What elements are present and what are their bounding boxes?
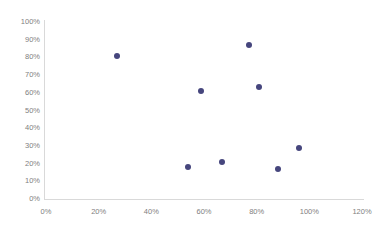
y-tick-label: 40% <box>0 123 40 132</box>
x-tick-label-text: 40% <box>131 207 171 216</box>
y-tick-label-text: 70% <box>0 70 40 79</box>
y-tick-label-text: 90% <box>0 35 40 44</box>
x-tick-label-text: 0% <box>26 207 66 216</box>
y-tick-label: 20% <box>0 159 40 168</box>
y-tick-label: 90% <box>0 35 40 44</box>
y-tick-label-text: 100% <box>0 17 40 26</box>
y-tick-label-text: 50% <box>0 106 40 115</box>
x-tick-label-text: 20% <box>79 207 119 216</box>
x-tick-label: 40% <box>131 207 171 217</box>
y-tick-label-text: 80% <box>0 52 40 61</box>
x-tick-label-text: 100% <box>289 207 329 216</box>
y-tick-label-text: 20% <box>0 159 40 168</box>
data-point <box>256 84 262 90</box>
data-point <box>185 164 191 170</box>
y-tick-label: 50% <box>0 106 40 115</box>
data-point <box>219 159 225 165</box>
y-tick-label: 60% <box>0 88 40 97</box>
y-tick-label: 100% <box>0 17 40 26</box>
scatter-chart: 0%10%20%30%40%50%60%70%80%90%100% 0%20%4… <box>0 0 385 239</box>
y-tick-label: 30% <box>0 141 40 150</box>
y-tick-label: 10% <box>0 176 40 185</box>
data-point <box>114 53 120 59</box>
y-tick-label-text: 40% <box>0 123 40 132</box>
x-tick-label-text: 80% <box>237 207 277 216</box>
x-tick-label: 100% <box>289 207 329 217</box>
x-tick-label-text: 120% <box>342 207 382 216</box>
plot-area <box>44 22 364 199</box>
y-tick-label-text: 60% <box>0 88 40 97</box>
x-axis-line <box>44 199 364 200</box>
x-tick-label: 60% <box>184 207 224 217</box>
data-point <box>296 145 302 151</box>
x-tick-label: 80% <box>237 207 277 217</box>
y-tick-label: 80% <box>0 52 40 61</box>
data-point <box>198 88 204 94</box>
y-tick-label-text: 0% <box>0 194 40 203</box>
x-tick-label-text: 60% <box>184 207 224 216</box>
x-tick-label: 120% <box>342 207 382 217</box>
y-tick-label-text: 10% <box>0 176 40 185</box>
data-point <box>246 42 252 48</box>
y-tick-label-text: 30% <box>0 141 40 150</box>
x-tick-label: 20% <box>79 207 119 217</box>
y-tick-label: 0% <box>0 194 40 203</box>
y-tick-label: 70% <box>0 70 40 79</box>
x-tick-label: 0% <box>26 207 66 217</box>
data-point <box>275 166 281 172</box>
